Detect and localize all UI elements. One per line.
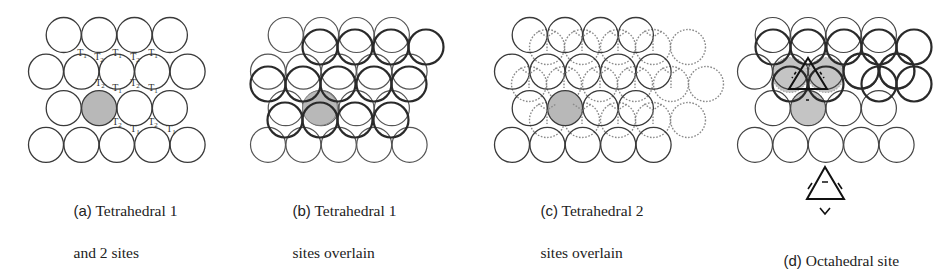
subscript: 2 (154, 121, 158, 129)
sphere (64, 127, 99, 162)
panel-b-tetrahedral-1-overlain: (b) Tetrahedral 1 sites overlain (235, 0, 470, 266)
subscript: 2 (136, 56, 140, 64)
sphere (392, 127, 427, 162)
caption-a-tag: (a) (74, 202, 92, 219)
sphere (152, 18, 187, 53)
panel-a-tetrahedral-1-and-2-sites: T1T2T1T2T1T2T1T2T1T2T1T2T1 (a) Tetrahedr… (0, 0, 235, 266)
subscript: 2 (101, 82, 105, 90)
caption-c-line2: sites overlain (541, 244, 623, 261)
subscript: 1 (172, 128, 176, 136)
sphere (755, 91, 790, 126)
sphere-packing-diagram-c (470, 0, 710, 170)
sphere (601, 127, 636, 162)
highlighted-sphere (548, 91, 583, 126)
subscript: 1 (136, 128, 140, 136)
sphere (268, 18, 303, 53)
overlay-sphere (338, 103, 373, 138)
subscript: 1 (154, 87, 158, 95)
caption-b-line1: Tetrahedral 1 (311, 202, 397, 219)
caption-d: (d) Octahedral site (768, 229, 899, 273)
site-label-t1: T1 (148, 47, 158, 60)
sphere (99, 127, 134, 162)
sphere (29, 127, 64, 162)
sphere (29, 54, 64, 89)
overlay-sphere (338, 30, 373, 65)
sphere (117, 18, 152, 53)
sphere (565, 127, 600, 162)
sphere (321, 127, 356, 162)
caption-a-line1: Tetrahedral 1 (92, 202, 178, 219)
sphere-packing-diagram-a: T1T2T1T2T1T2T1T2T1T2T1T2T1 (0, 0, 235, 170)
sphere (512, 18, 547, 53)
caption-b-tag: (b) (293, 202, 311, 219)
caption-c-line1: Tetrahedral 2 (558, 202, 644, 219)
sphere (583, 18, 618, 53)
sphere (636, 127, 671, 162)
panel-d-octahedral-site: (d) Octahedral site (710, 0, 947, 266)
sphere (512, 91, 547, 126)
caption-d-tag: (d) (784, 252, 802, 269)
sphere (46, 91, 81, 126)
sphere (251, 127, 286, 162)
subscript: 1 (83, 52, 87, 60)
sphere (844, 127, 879, 162)
site-label-t1: T1 (112, 82, 122, 95)
dotted-overlay-sphere (671, 103, 706, 138)
caption-c: (c) Tetrahedral 2 sites overlain (525, 179, 644, 273)
sphere (46, 18, 81, 53)
subscript: 2 (100, 56, 104, 64)
sphere-packing-diagram-b (235, 0, 470, 170)
sphere (826, 91, 861, 126)
caption-b: (b) Tetrahedral 1 sites overlain (277, 179, 396, 273)
overlay-sphere (897, 30, 932, 65)
site-label-t2: T2 (95, 77, 105, 90)
subscript: 1 (154, 52, 158, 60)
sphere (170, 54, 205, 89)
overlay-sphere (409, 30, 444, 65)
sphere (879, 127, 914, 162)
sphere (530, 54, 565, 89)
sphere (357, 127, 392, 162)
panel-c-tetrahedral-2-overlain: (c) Tetrahedral 2 sites overlain (470, 0, 710, 266)
site-label-t1: T1 (77, 47, 87, 60)
sphere (117, 91, 152, 126)
subscript: 2 (118, 121, 122, 129)
site-label-t1: T1 (112, 47, 122, 60)
caption-a: (a) Tetrahedral 1 and 2 sites (58, 179, 177, 273)
sphere (530, 127, 565, 162)
sphere (738, 54, 773, 89)
caption-b-line2: sites overlain (293, 244, 375, 261)
caption-d-line1: Octahedral site (802, 252, 899, 269)
sphere (738, 127, 773, 162)
site-label-t2: T2 (130, 77, 140, 90)
site-label-t1: T1 (148, 82, 158, 95)
sphere (773, 127, 808, 162)
subscript: 1 (118, 52, 122, 60)
caption-a-line2: and 2 sites (74, 244, 139, 261)
sphere (583, 91, 618, 126)
sphere (286, 127, 321, 162)
dotted-overlay-sphere (671, 30, 706, 65)
sphere-packing-diagram-d (710, 0, 947, 230)
caption-c-tag: (c) (541, 202, 559, 219)
sphere (495, 127, 530, 162)
sphere (808, 127, 843, 162)
subscript: 2 (136, 82, 140, 90)
subscript: 1 (118, 87, 122, 95)
sphere (135, 127, 170, 162)
